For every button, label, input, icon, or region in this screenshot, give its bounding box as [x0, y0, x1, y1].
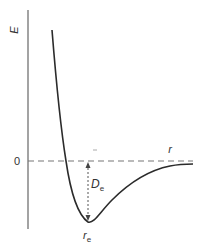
- potential-curve: [52, 30, 193, 222]
- potential-energy-diagram: E 0 r De re: [0, 0, 206, 249]
- zero-label: 0: [14, 155, 20, 167]
- well-depth-label: De: [91, 177, 105, 193]
- x-axis-label: r: [168, 143, 173, 155]
- equilibrium-distance-label: re: [83, 229, 92, 244]
- arrowhead-up-icon: [86, 162, 91, 168]
- y-axis-label: E: [8, 26, 20, 34]
